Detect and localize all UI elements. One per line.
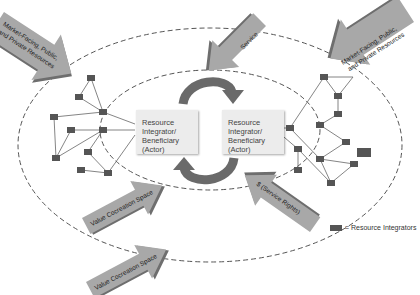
legend-node-swatch: [330, 225, 342, 231]
left-network: [54, 78, 135, 173]
diagram-canvas: Market-Facing, Public, and Private Resou…: [0, 0, 420, 295]
legend-label: = Resource Integrators: [345, 224, 416, 231]
arrow-top-left: Market-Facing, Public, and Private Resou…: [0, 2, 88, 99]
arrow-top-right: [313, 0, 420, 82]
arrow-service: [192, 5, 273, 86]
actor-box-left: Resource Integrator/ Beneficiary (Actor): [136, 110, 198, 154]
arrow-value-cocreation-bottom: Value Cocreation Space: [81, 232, 177, 295]
actor-label-right: Resource Integrator/ Beneficiary (Actor): [228, 118, 265, 154]
right-network-nodes: [286, 74, 371, 186]
left-network-nodes: [50, 75, 112, 176]
arrow-value-cocreation-mid: Value Cocreation Space: [77, 168, 173, 245]
cycle-arrow-bottom: [173, 157, 234, 180]
actor-label-left: Resource Integrator/ Beneficiary (Actor): [142, 118, 179, 154]
legend: = Resource Integrators: [330, 224, 416, 231]
diagram-graphics: Market-Facing, Public, and Private Resou…: [0, 0, 420, 295]
actor-box-right: Resource Integrator/ Beneficiary (Actor): [222, 110, 284, 154]
cycle-arrow-top: [183, 82, 244, 104]
